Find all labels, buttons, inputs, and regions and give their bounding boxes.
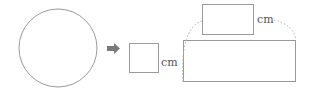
top-rect-unit-label: cm (257, 14, 274, 25)
large-rectangle (184, 41, 296, 82)
dotted-arc-right (274, 20, 296, 40)
small-square-unit-label: cm (161, 57, 178, 68)
circle-shape (19, 9, 97, 87)
top-rectangle (203, 5, 254, 35)
dotted-arc-left (183, 21, 202, 82)
arrow-right-icon (107, 43, 120, 54)
small-square (130, 44, 159, 73)
